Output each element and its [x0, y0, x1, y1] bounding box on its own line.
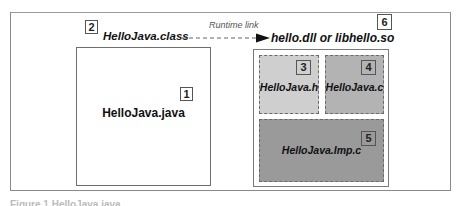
badge-3: 3 [296, 60, 311, 75]
badge-6: 6 [377, 14, 392, 30]
badge-1: 1 [180, 87, 193, 101]
badge-4: 4 [361, 60, 376, 75]
java-source-label: HelloJava.java [76, 106, 211, 120]
implementation-label: HelloJava.Imp.c [259, 144, 384, 156]
runtime-link-arrow-icon [180, 32, 272, 44]
class-file-label: HelloJava.class [103, 30, 189, 42]
badge-2: 2 [85, 20, 98, 34]
header-file-label: HelloJava.h [259, 81, 319, 93]
figure-caption: Figure 1 HelloJava.java [10, 199, 121, 206]
c-source-label: HelloJava.c [325, 81, 384, 93]
native-library-label: hello.dll or libhello.so [271, 31, 394, 45]
runtime-link-label: Runtime link [209, 20, 259, 30]
